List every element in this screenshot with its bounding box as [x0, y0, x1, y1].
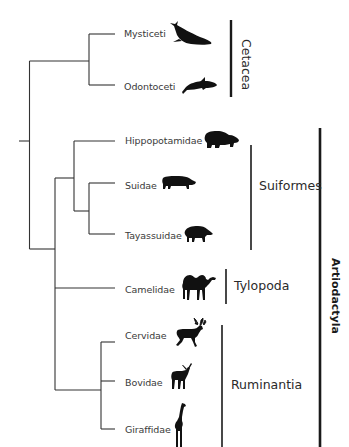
camel-icon: [182, 275, 216, 300]
hippo-icon: [205, 131, 239, 148]
taxon-label-cervidae: Cervidae: [125, 331, 167, 341]
taxon-label-odontoceti: Odontoceti: [124, 82, 175, 92]
antelope-icon: [171, 363, 192, 389]
baleen-whale-icon: [170, 21, 211, 45]
taxon-label-giraffidae: Giraffidae: [125, 425, 171, 435]
taxon-label-suidae: Suidae: [125, 181, 157, 191]
clade-label-artiodactyla: Artiodactyla: [330, 258, 341, 334]
peccary-icon: [185, 226, 213, 242]
giraffe-icon: [175, 403, 186, 447]
taxon-label-mysticeti: Mysticeti: [124, 29, 166, 39]
tree-branches: [19, 34, 115, 429]
taxon-label-bovidae: Bovidae: [125, 378, 163, 388]
reindeer-icon: [176, 318, 206, 347]
clade-label-suiformes: Suiformes: [259, 180, 322, 193]
taxon-label-camelidae: Camelidae: [125, 285, 175, 295]
clade-label-cetacea: Cetacea: [240, 39, 253, 90]
clade-label-tylopoda: Tylopoda: [234, 280, 289, 293]
dolphin-icon: [182, 77, 217, 94]
clade-label-ruminantia: Ruminantia: [231, 379, 302, 392]
pig-icon: [162, 176, 196, 189]
taxon-label-tayassuidae: Tayassuidae: [125, 231, 182, 241]
taxon-label-hippopotamidae: Hippopotamidae: [125, 136, 202, 146]
